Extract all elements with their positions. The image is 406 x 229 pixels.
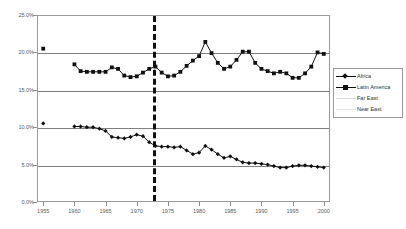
x-axis-tick-label: 1975 bbox=[156, 208, 180, 214]
y-axis-tick-label: 10.0% bbox=[0, 124, 34, 130]
x-axis-tick-mark bbox=[43, 202, 44, 206]
legend-label: Near East bbox=[356, 106, 381, 113]
legend-item-far-east[interactable]: Far East bbox=[336, 93, 402, 104]
x-axis-tick-label: 1955 bbox=[31, 208, 55, 214]
x-axis-tick-mark bbox=[106, 202, 107, 206]
gridline bbox=[38, 53, 329, 54]
legend-item-near-east[interactable]: Near East bbox=[336, 104, 402, 115]
legend-marker-icon bbox=[336, 72, 356, 81]
chart-legend: AfricaLatin AmericaFar EastNear East bbox=[333, 68, 403, 118]
x-axis-tick-mark bbox=[74, 202, 75, 206]
x-axis-tick-mark bbox=[199, 202, 200, 206]
y-axis-tick-label: 15.0% bbox=[0, 87, 34, 93]
x-axis-tick-label: 1985 bbox=[218, 208, 242, 214]
legend-marker-icon bbox=[336, 105, 356, 114]
gridline bbox=[38, 91, 329, 92]
x-axis-tick-label: 1980 bbox=[187, 208, 211, 214]
legend-item-africa[interactable]: Africa bbox=[336, 71, 402, 82]
y-axis-tick-label: 5.0% bbox=[0, 162, 34, 168]
x-axis-tick-mark bbox=[293, 202, 294, 206]
y-axis-tick-label: 0.0% bbox=[0, 199, 34, 205]
x-axis-tick-label: 1965 bbox=[94, 208, 118, 214]
x-axis-tick-mark bbox=[137, 202, 138, 206]
legend-item-latin-america[interactable]: Latin America bbox=[336, 82, 402, 93]
vertical-divider bbox=[153, 16, 156, 201]
y-axis-tick-mark bbox=[33, 202, 37, 203]
x-axis-tick-label: 1960 bbox=[62, 208, 86, 214]
gridline bbox=[38, 128, 329, 129]
x-axis-tick-mark bbox=[230, 202, 231, 206]
legend-label: Africa bbox=[356, 73, 371, 80]
x-axis-tick-mark bbox=[324, 202, 325, 206]
x-axis-tick-mark bbox=[261, 202, 262, 206]
legend-label: Latin America bbox=[356, 84, 390, 91]
x-axis-tick-label: 2000 bbox=[312, 208, 336, 214]
legend-marker-icon bbox=[336, 83, 356, 92]
y-axis-tick-label: 25.0% bbox=[0, 12, 34, 18]
y-axis-tick-label: 20.0% bbox=[0, 49, 34, 55]
legend-label: Far East bbox=[356, 95, 378, 102]
x-axis-tick-label: 1970 bbox=[125, 208, 149, 214]
x-axis-tick-label: 1995 bbox=[281, 208, 305, 214]
legend-marker-icon bbox=[336, 94, 356, 103]
x-axis-tick-label: 1990 bbox=[249, 208, 273, 214]
x-axis-tick-mark bbox=[168, 202, 169, 206]
chart-container: 0.0%5.0%10.0%15.0%20.0%25.0% 19551960196… bbox=[0, 0, 406, 229]
gridline bbox=[38, 166, 329, 167]
plot-area bbox=[37, 15, 330, 202]
